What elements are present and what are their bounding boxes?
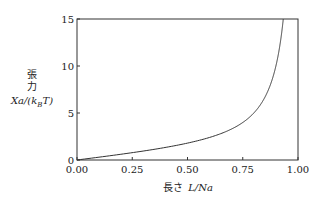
x-label-prefix: 長さ — [163, 182, 183, 193]
y-axis-label: 張 力 Xa/(kBT) — [10, 69, 53, 109]
x-tick-label: 0.25 — [121, 164, 143, 175]
chart: 051015 0.000.250.500.751.00 張 力 Xa/(kBT)… — [0, 0, 321, 203]
y-label-expression: Xa/(kBT) — [10, 95, 53, 109]
x-axis-label: 長さL/Na — [163, 182, 213, 193]
y-label-char-1: 張 — [27, 69, 37, 80]
x-tick-label: 1.00 — [287, 164, 309, 175]
y-expr-main: Xa/(k — [10, 95, 37, 106]
x-tick-label: 0.50 — [176, 164, 198, 175]
plot-frame — [77, 19, 298, 160]
y-label-char-2: 力 — [27, 80, 37, 92]
x-tick-label: 0.00 — [66, 164, 88, 175]
y-expr-end: T) — [43, 95, 54, 106]
data-line — [77, 19, 283, 160]
x-label: 長さL/Na — [163, 182, 213, 193]
x-label-expression: L/Na — [187, 182, 213, 193]
y-tick-label: 15 — [61, 14, 74, 25]
y-tick-label: 5 — [68, 108, 74, 119]
y-tick-label: 10 — [61, 61, 74, 72]
x-tick-label: 0.75 — [232, 164, 254, 175]
